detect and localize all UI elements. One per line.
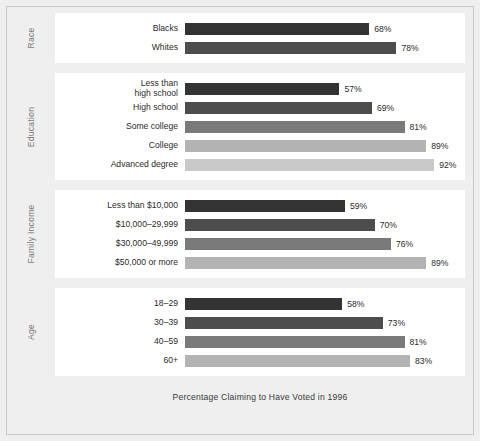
bar-category-label: Blacks [55,24,185,33]
bar-value-label: 70% [375,220,397,230]
chart-panel-race: Blacks68%Whites78% [55,13,465,63]
chart-panel-age: 18–2958%30–3973%40–5981%60+83% [55,288,465,376]
bar-row: Advanced degree92% [55,155,465,174]
bar [185,102,372,114]
bar-row: $30,000–49,99976% [55,234,465,253]
bar-category-label: 30–39 [55,318,185,327]
bar-value-label: 81% [405,122,427,132]
bar-track: 70% [185,215,465,234]
bar-row: Blacks68% [55,19,465,38]
bar-category-label: 40–59 [55,337,185,346]
bar-track: 81% [185,332,465,351]
bar-row: 60+83% [55,351,465,370]
bar-category-label: Less than $10,000 [55,201,185,210]
bar [185,219,375,231]
bar-row: College89% [55,136,465,155]
bar-track: 89% [185,136,465,155]
bar-row: Whites78% [55,38,465,57]
bar [185,317,383,329]
bar [185,159,434,171]
bar-track: 89% [185,253,465,272]
chart-figure: RaceBlacks68%Whites78%EducationLess than… [0,0,480,441]
bar [185,200,345,212]
bar-track: 69% [185,98,465,117]
bar-category-label: Some college [55,122,185,131]
bar [185,121,405,133]
group-label-age: Age [7,288,55,376]
bar-category-label: College [55,141,185,150]
bar-category-label: Advanced degree [55,160,185,169]
bar-track: 57% [185,79,465,98]
bar [185,238,391,250]
bar-row: 40–5981% [55,332,465,351]
group-label-education: Education [7,73,55,180]
bar-value-label: 69% [372,103,394,113]
bar-category-label: $10,000–29,999 [55,220,185,229]
bar-category-label: 18–29 [55,299,185,308]
chart-frame: RaceBlacks68%Whites78%EducationLess than… [6,6,474,435]
bar [185,257,426,269]
bar-value-label: 92% [434,160,456,170]
bar-value-label: 89% [426,141,448,151]
bar-track: 73% [185,313,465,332]
bar-track: 59% [185,196,465,215]
bar-value-label: 59% [345,201,367,211]
bar-value-label: 68% [369,24,391,34]
bar [185,355,410,367]
bar-row: Some college81% [55,117,465,136]
chart-panel-education: Less than high school57%High school69%So… [55,73,465,180]
bar-category-label: High school [55,103,185,112]
bar-category-label: 60+ [55,356,185,365]
bar-category-label: Whites [55,43,185,52]
group-label-family-income: Family Income [7,190,55,278]
bar [185,83,339,95]
bar [185,336,405,348]
bar-row: 18–2958% [55,294,465,313]
bar [185,298,342,310]
bar-row: $50,000 or more89% [55,253,465,272]
bar-value-label: 58% [342,299,364,309]
chart-panel-family-income: Less than $10,00059%$10,000–29,99970%$30… [55,190,465,278]
bar-category-label: $30,000–49,999 [55,239,185,248]
bar-value-label: 89% [426,258,448,268]
bar-category-label: Less than high school [55,79,185,97]
bar-value-label: 78% [396,43,418,53]
bar [185,23,369,35]
bar-row: 30–3973% [55,313,465,332]
bar-value-label: 57% [339,84,361,94]
bar-row: Less than high school57% [55,79,465,98]
group-label-text: Education [26,106,36,147]
bar [185,42,396,54]
bar-value-label: 83% [410,356,432,366]
bar-row: $10,000–29,99970% [55,215,465,234]
group-label-text: Family Income [26,204,36,263]
bar-track: 76% [185,234,465,253]
group-label-race: Race [7,13,55,63]
bar-track: 92% [185,155,465,174]
bar-row: Less than $10,00059% [55,196,465,215]
bar-value-label: 76% [391,239,413,249]
bar-value-label: 73% [383,318,405,328]
bar-category-label: $50,000 or more [55,258,185,267]
bar-track: 81% [185,117,465,136]
bar-track: 78% [185,38,465,57]
group-label-text: Race [26,27,36,48]
bar-value-label: 81% [405,337,427,347]
chart-caption: Percentage Claiming to Have Voted in 199… [55,392,465,402]
group-label-text: Age [26,324,36,340]
bar-row: High school69% [55,98,465,117]
bar [185,140,426,152]
bar-track: 83% [185,351,465,370]
bar-track: 68% [185,19,465,38]
bar-track: 58% [185,294,465,313]
